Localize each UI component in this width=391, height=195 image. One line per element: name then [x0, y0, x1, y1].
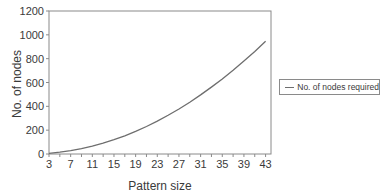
y-tick-label: 0	[38, 148, 44, 160]
x-tick-label: 43	[259, 158, 271, 170]
x-tick-label: 31	[194, 158, 206, 170]
x-tick-label: 7	[68, 158, 74, 170]
x-tick-label: 23	[151, 158, 163, 170]
x-tick-label: 15	[108, 158, 120, 170]
x-axis: 37111519232731353943	[46, 154, 272, 170]
y-axis-title: No. of nodes	[10, 50, 24, 118]
legend: No. of nodes required	[279, 79, 380, 95]
x-tick-label: 35	[216, 158, 228, 170]
line-chart: 020040060080010001200 371115192327313539…	[0, 0, 391, 195]
plot-border	[49, 11, 271, 154]
y-tick-label: 800	[26, 53, 44, 65]
x-tick-label: 19	[130, 158, 142, 170]
x-tick-label: 3	[46, 158, 52, 170]
legend-label: No. of nodes required	[297, 82, 379, 92]
series-line-nodes-required	[49, 41, 266, 153]
y-tick-label: 1000	[20, 29, 44, 41]
plot-area	[49, 11, 271, 154]
y-tick-label: 1200	[20, 5, 44, 17]
y-tick-label: 600	[26, 77, 44, 89]
x-tick-label: 39	[238, 158, 250, 170]
x-tick-label: 11	[87, 158, 98, 170]
x-tick-label: 27	[173, 158, 185, 170]
y-tick-label: 400	[26, 100, 44, 112]
x-axis-title: Pattern size	[128, 179, 192, 193]
y-tick-label: 200	[26, 124, 44, 136]
legend-line-swatch-icon	[285, 87, 294, 88]
